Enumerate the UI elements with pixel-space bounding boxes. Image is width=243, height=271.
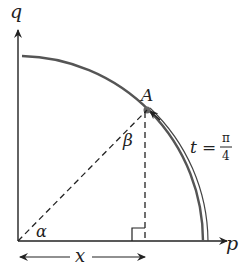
point-a-label: A	[139, 85, 153, 105]
t-label: t	[190, 137, 197, 157]
x-label: x	[75, 245, 85, 266]
quarter-circle-arc	[22, 56, 203, 241]
traversed-arc	[150, 108, 208, 241]
beta-label: β	[122, 130, 133, 150]
q-axis-label: q	[10, 0, 22, 22]
fraction-denominator: 4	[222, 149, 230, 163]
fraction-numerator: π	[222, 131, 230, 145]
unit-circle-diagram: q p A α β x t = π 4	[0, 0, 243, 271]
p-axis-label: p	[226, 232, 238, 254]
equals-sign: =	[202, 137, 216, 157]
right-angle-mark	[132, 228, 145, 241]
alpha-label: α	[36, 222, 47, 241]
